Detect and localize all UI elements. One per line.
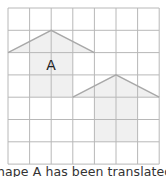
translation-grid-diagram: [0, 0, 166, 166]
shape-a-label: A: [46, 57, 56, 73]
caption-text: hape A has been translated 3 squa: [0, 164, 166, 177]
